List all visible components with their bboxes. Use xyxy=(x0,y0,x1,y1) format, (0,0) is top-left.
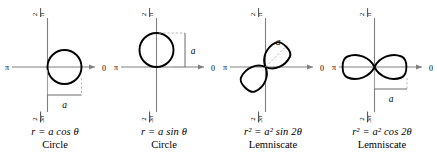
axis-label-bottom: 3π 2 xyxy=(140,112,155,123)
svg-text:π: π xyxy=(38,12,46,16)
svg-text:π: π xyxy=(256,12,264,16)
amplitude-label: a xyxy=(276,37,281,47)
panel-curve-name: Circle xyxy=(0,139,110,151)
polar-plot-lemniscate-cos: π 2 3π 2 π 0 a xyxy=(327,0,437,128)
panel-caption: r² = a² sin 2θ Lemniscate xyxy=(218,126,328,152)
svg-text:3π: 3π xyxy=(256,115,264,123)
svg-text:2: 2 xyxy=(249,117,257,121)
axis-label-top: π 2 xyxy=(249,8,264,17)
panel-curve-name: Lemniscate xyxy=(327,139,437,151)
polar-curve-panel: π 2 3π 2 π 0 a r = a cos θ Circle xyxy=(0,0,110,166)
amplitude-label: a xyxy=(191,46,196,56)
axis-arrow-icon xyxy=(198,64,204,69)
axis-label-right: 0 xyxy=(429,64,433,73)
panel-equation: r² = a² cos 2θ xyxy=(327,126,437,138)
svg-text:2: 2 xyxy=(140,12,148,16)
svg-text:2: 2 xyxy=(249,12,257,16)
svg-text:π: π xyxy=(365,12,373,16)
axis-label-right: 0 xyxy=(102,64,106,73)
polar-curve-panel: π 2 3π 2 π 0 a r² = a² sin 2θ Lemni xyxy=(218,0,328,166)
axis-label-right: 0 xyxy=(211,64,215,73)
svg-text:2: 2 xyxy=(31,117,39,121)
panel-equation: r = a sin θ xyxy=(109,126,219,138)
amplitude-bracket xyxy=(48,70,82,95)
svg-text:3π: 3π xyxy=(38,115,46,123)
axis-arrow-icon xyxy=(307,64,313,69)
svg-text:2: 2 xyxy=(31,12,39,16)
panel-equation: r² = a² sin 2θ xyxy=(218,126,328,138)
svg-text:2: 2 xyxy=(358,12,366,16)
amplitude-label: a xyxy=(389,94,394,104)
polar-plot-circle-sin: π 2 3π 2 π 0 a xyxy=(109,0,219,128)
axis-label-left: π xyxy=(223,63,227,72)
panel-caption: r = a sin θ Circle xyxy=(109,126,219,152)
panel-equation: r = a cos θ xyxy=(0,126,110,138)
panel-curve-name: Circle xyxy=(109,139,219,151)
polar-curves-figure: π 2 3π 2 π 0 a r = a cos θ Circle xyxy=(0,0,437,166)
panel-caption: r = a cos θ Circle xyxy=(0,126,110,152)
svg-text:2: 2 xyxy=(140,117,148,121)
axis-label-bottom: 3π 2 xyxy=(358,112,373,123)
axis-label-left: π xyxy=(332,63,336,72)
axis-label-left: π xyxy=(5,63,9,72)
polar-curve-panel: π 2 3π 2 π 0 a r = a sin θ Circle xyxy=(109,0,219,166)
polar-curve-panel: π 2 3π 2 π 0 a r² = a² cos 2θ Lem xyxy=(327,0,437,166)
axis-label-top: π 2 xyxy=(31,8,46,17)
amplitude-label: a xyxy=(62,100,67,110)
axis-label-bottom: 3π 2 xyxy=(31,112,46,123)
svg-text:2: 2 xyxy=(358,117,366,121)
polar-plot-circle-cos: π 2 3π 2 π 0 a xyxy=(0,0,110,128)
axis-label-top: π 2 xyxy=(140,8,155,17)
axis-arrow-icon xyxy=(89,64,95,69)
axis-label-bottom: 3π 2 xyxy=(249,112,264,123)
panel-curve-name: Lemniscate xyxy=(218,139,328,151)
axis-arrow-icon xyxy=(416,64,422,69)
panel-caption: r² = a² cos 2θ Lemniscate xyxy=(327,126,437,152)
axis-label-right: 0 xyxy=(320,64,324,73)
amplitude-bracket xyxy=(159,33,185,67)
axis-label-left: π xyxy=(114,63,118,72)
polar-plot-lemniscate-sin: π 2 3π 2 π 0 a xyxy=(218,0,328,128)
svg-text:3π: 3π xyxy=(365,115,373,123)
axis-label-top: π 2 xyxy=(358,8,373,17)
